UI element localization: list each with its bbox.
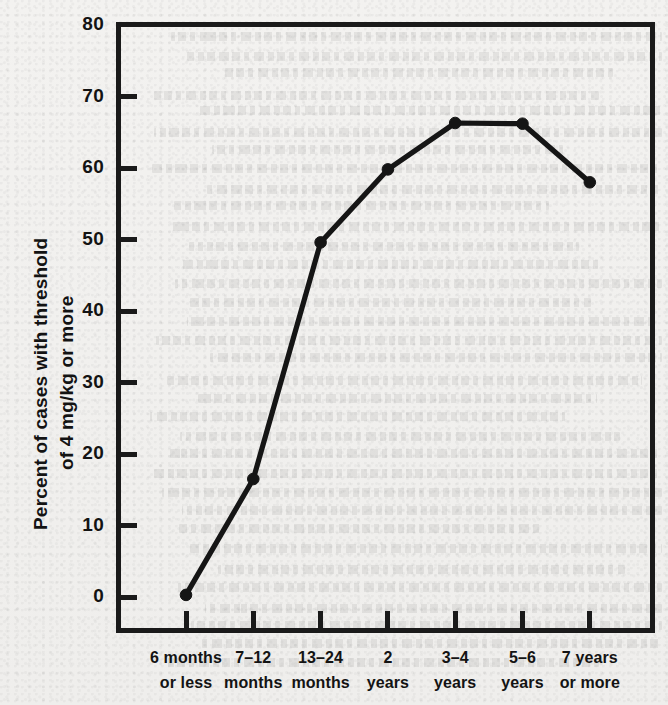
y-axis-tick-label: 50 (64, 228, 104, 250)
y-axis-tick-label: 10 (64, 514, 104, 536)
y-axis-tick-label: 80 (64, 13, 104, 35)
plot-area (116, 22, 655, 633)
x-axis-category-label-line: 7 years (535, 645, 645, 670)
y-axis-tick-label: 0 (64, 585, 104, 607)
data-point-marker (382, 164, 394, 176)
x-axis-category-label: 7 yearsor more (535, 645, 645, 695)
data-point-marker (315, 237, 327, 249)
data-point-marker (517, 118, 529, 130)
data-point-marker (584, 177, 596, 189)
data-series-line (121, 27, 660, 638)
y-axis-tick-label: 20 (64, 442, 104, 464)
y-axis-tick-label: 60 (64, 156, 104, 178)
data-point-marker (248, 473, 260, 485)
x-axis-category-label-line: or more (535, 670, 645, 695)
y-axis-tick-label: 70 (64, 85, 104, 107)
data-point-marker (449, 117, 461, 129)
y-axis-tick-label: 40 (64, 299, 104, 321)
y-axis-tick-label: 30 (64, 371, 104, 393)
y-axis-title-line-1: Percent of cases with threshold (30, 238, 52, 530)
data-point-marker (180, 589, 192, 601)
